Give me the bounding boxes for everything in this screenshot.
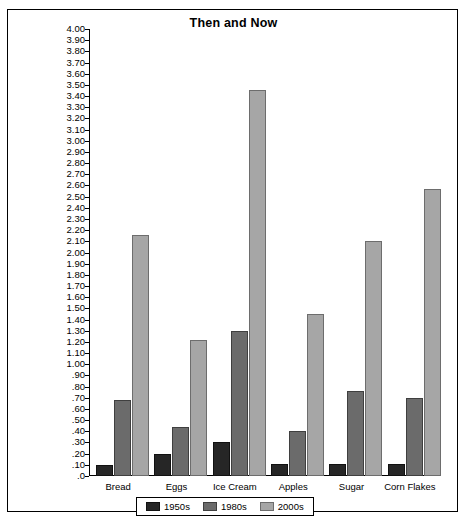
bar-group — [264, 29, 322, 476]
y-axis-tick-label: 1.80 — [39, 270, 85, 279]
y-axis-tick-label: 1.60 — [39, 292, 85, 301]
bar — [289, 431, 306, 476]
plot-area: 4.003.903.803.703.603.503.403.303.203.10… — [89, 29, 439, 476]
y-axis-tick-label: 2.00 — [39, 248, 85, 257]
bar-group — [206, 29, 264, 476]
y-axis-tick-label: .10 — [39, 460, 85, 469]
y-axis-tick-label: 2.80 — [39, 158, 85, 167]
bar-group — [89, 29, 147, 476]
y-axis-tick-label: 1.50 — [39, 303, 85, 312]
y-axis-tick-label: .80 — [39, 382, 85, 391]
y-axis-tick-label: .70 — [39, 393, 85, 402]
y-axis-tick-label: 2.70 — [39, 169, 85, 178]
y-axis-tick-label: .20 — [39, 449, 85, 458]
y-axis-tick-label: 1.90 — [39, 259, 85, 268]
y-axis-tick-label: 3.70 — [39, 58, 85, 67]
y-axis-tick-label: 1.40 — [39, 315, 85, 324]
chart-legend: 1950s1980s2000s — [136, 497, 314, 516]
y-axis-tick-label: .0 — [39, 471, 85, 480]
y-axis-tick — [85, 476, 89, 477]
y-axis-tick-label: 3.60 — [39, 69, 85, 78]
legend-item: 1950s — [146, 501, 190, 512]
legend-label: 1950s — [164, 501, 190, 512]
y-axis-tick-label: 1.20 — [39, 337, 85, 346]
y-axis-tick-label: 3.00 — [39, 136, 85, 145]
legend-label: 2000s — [278, 501, 304, 512]
y-axis-tick-label: .40 — [39, 426, 85, 435]
bar — [406, 398, 423, 476]
legend-swatch — [203, 502, 217, 511]
bar — [271, 464, 288, 476]
legend-item: 2000s — [260, 501, 304, 512]
y-axis-tick-label: 2.20 — [39, 225, 85, 234]
legend-swatch — [146, 502, 160, 511]
y-axis-tick-label: .30 — [39, 437, 85, 446]
bar — [154, 454, 171, 476]
bar-group — [322, 29, 380, 476]
plot-inner: 4.003.903.803.703.603.503.403.303.203.10… — [89, 29, 439, 476]
y-axis-tick-label: 3.10 — [39, 125, 85, 134]
bar — [329, 464, 346, 476]
chart-frame: Then and Now Cost of Items (in dollars) … — [7, 9, 458, 512]
legend-label: 1980s — [221, 501, 247, 512]
bar — [424, 189, 441, 476]
y-axis-tick-label: 3.80 — [39, 46, 85, 55]
y-axis-tick-label: 2.90 — [39, 147, 85, 156]
bar — [231, 331, 248, 476]
y-axis-tick-label: 1.70 — [39, 281, 85, 290]
y-axis-tick-label: 1.00 — [39, 359, 85, 368]
y-axis-tick-label: 3.40 — [39, 91, 85, 100]
y-axis-tick-label: 3.90 — [39, 35, 85, 44]
y-axis-tick-label: .90 — [39, 370, 85, 379]
legend-item: 1980s — [203, 501, 247, 512]
bar — [213, 442, 230, 476]
y-axis-tick-label: .60 — [39, 404, 85, 413]
y-axis-tick-label: 2.10 — [39, 236, 85, 245]
bar — [114, 400, 131, 476]
y-axis-tick-label: 2.30 — [39, 214, 85, 223]
y-axis-tick-label: 2.60 — [39, 180, 85, 189]
y-axis-tick-label: 3.50 — [39, 80, 85, 89]
y-axis-tick-label: 1.10 — [39, 348, 85, 357]
y-axis-tick-label: 2.40 — [39, 203, 85, 212]
category-label: Corn Flakes — [365, 481, 455, 492]
bar — [172, 427, 189, 476]
bar — [388, 464, 405, 476]
y-axis-tick-label: .50 — [39, 415, 85, 424]
y-axis-tick-label: 1.30 — [39, 326, 85, 335]
y-axis-tick-label: 4.00 — [39, 24, 85, 33]
bar-group — [147, 29, 205, 476]
legend-swatch — [260, 502, 274, 511]
bar — [347, 391, 364, 476]
bar-group — [381, 29, 439, 476]
bar — [96, 465, 113, 476]
y-axis-tick-label: 3.30 — [39, 102, 85, 111]
y-axis-tick-label: 3.20 — [39, 113, 85, 122]
y-axis-tick-label: 2.50 — [39, 192, 85, 201]
